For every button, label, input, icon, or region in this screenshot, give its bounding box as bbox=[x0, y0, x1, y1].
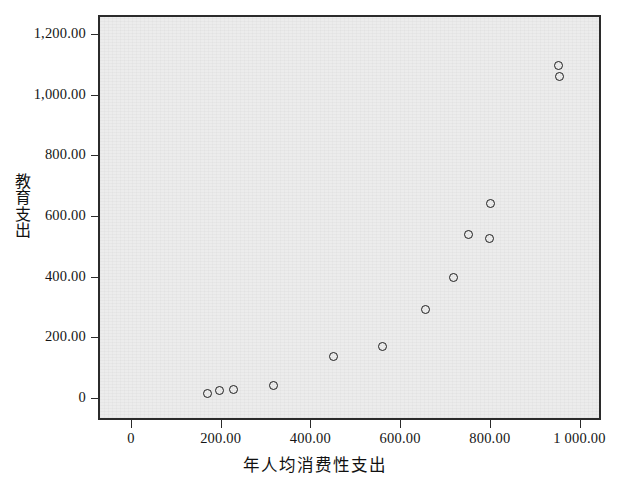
data-point bbox=[329, 352, 338, 361]
x-axis-tick-label: 1 000.00 bbox=[553, 430, 605, 447]
x-axis-tick-label: 0 bbox=[127, 430, 134, 447]
y-axis-tick bbox=[91, 95, 98, 96]
scatter-chart: 0200.00400.00600.00800.001,000.001,200.0… bbox=[0, 0, 629, 492]
data-point bbox=[555, 72, 564, 81]
x-axis-tick-label: 600.00 bbox=[380, 430, 421, 447]
x-axis-tick-label: 800.00 bbox=[469, 430, 510, 447]
x-axis-tick bbox=[221, 420, 222, 428]
data-point bbox=[421, 305, 430, 314]
data-point bbox=[464, 230, 473, 239]
data-point bbox=[215, 386, 224, 395]
data-point bbox=[203, 389, 212, 398]
y-axis-tick-label: 400.00 bbox=[45, 268, 86, 285]
x-axis-tick-label: 200.00 bbox=[200, 430, 241, 447]
y-axis-tick-label: 800.00 bbox=[45, 146, 86, 163]
x-axis-tick bbox=[490, 420, 491, 428]
y-axis-tick-label: 1,200.00 bbox=[34, 25, 86, 42]
data-point bbox=[229, 385, 238, 394]
data-point bbox=[269, 381, 278, 390]
plot-area bbox=[98, 15, 601, 420]
y-axis-tick bbox=[91, 216, 98, 217]
data-point bbox=[485, 234, 494, 243]
y-axis-tick bbox=[91, 277, 98, 278]
x-axis-tick bbox=[310, 420, 311, 428]
y-axis-title: 教育支出 bbox=[12, 174, 34, 239]
y-axis-tick-label: 600.00 bbox=[45, 207, 86, 224]
y-axis-tick-label: 200.00 bbox=[45, 328, 86, 345]
y-axis-tick bbox=[91, 155, 98, 156]
plot-background-texture bbox=[100, 17, 599, 418]
x-axis-title: 年人均消费性支出 bbox=[0, 452, 629, 476]
x-axis-tick bbox=[580, 420, 581, 428]
y-axis-tick bbox=[91, 337, 98, 338]
y-axis-tick-label: 1,000.00 bbox=[34, 86, 86, 103]
y-axis-tick bbox=[91, 34, 98, 35]
x-axis-tick-label: 400.00 bbox=[290, 430, 331, 447]
data-point bbox=[378, 342, 387, 351]
y-axis-tick bbox=[91, 398, 98, 399]
data-point bbox=[554, 61, 563, 70]
y-axis-tick-label: 0 bbox=[79, 389, 86, 406]
y-axis-title-char: 出 bbox=[12, 223, 34, 239]
x-axis-tick bbox=[131, 420, 132, 428]
data-point bbox=[486, 199, 495, 208]
x-axis-tick bbox=[400, 420, 401, 428]
data-point bbox=[449, 273, 458, 282]
